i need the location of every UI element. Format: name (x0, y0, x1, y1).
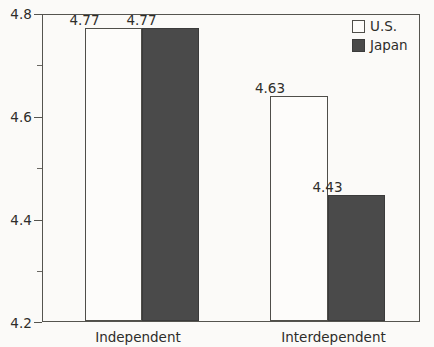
bar-value-independent-japan: 4.77 (113, 14, 170, 28)
y-axis-label-4-8: 4.8 (0, 8, 32, 22)
legend-item-japan: Japan (352, 39, 408, 53)
y-axis-tick-4-6 (34, 117, 42, 118)
y-axis-tick-4-2 (34, 322, 42, 323)
bar-interdependent-japan (328, 195, 385, 321)
plot-area (42, 14, 420, 322)
bar-interdependent-us (270, 96, 328, 321)
bar-independent-us (85, 28, 142, 321)
bar-value-interdependent-japan: 4.43 (299, 181, 356, 195)
y-axis-tick-4-4 (34, 220, 42, 221)
bar-value-independent-us: 4.77 (56, 14, 113, 28)
y-axis-label-4-4: 4.4 (0, 214, 32, 228)
x-axis-label-interdependent: Interdependent (252, 331, 415, 345)
y-axis-label-4-2: 4.2 (0, 317, 32, 331)
x-axis-label-independent: Independent (62, 331, 214, 345)
chart-figure: 4.8 4.6 4.4 4.2 4.77 4.77 4.63 4.43 Inde… (0, 0, 434, 347)
y-axis-label-4-6: 4.6 (0, 111, 32, 125)
y-axis-tick-4-8 (34, 14, 42, 15)
legend-item-us: U.S. (352, 20, 408, 34)
bar-value-interdependent-us: 4.63 (241, 82, 299, 96)
legend-swatch-us-icon (352, 20, 365, 33)
legend-swatch-japan-icon (352, 39, 365, 52)
bar-independent-japan (142, 28, 199, 321)
legend-label-japan: Japan (370, 39, 408, 53)
legend: U.S. Japan (352, 20, 408, 52)
legend-label-us: U.S. (370, 20, 397, 34)
